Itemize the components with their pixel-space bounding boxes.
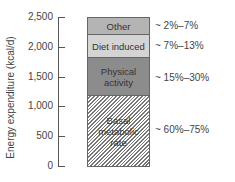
y-axis-label: Energy expenditure (kcal/d) <box>5 23 16 173</box>
segment-basal-metabolic-rate: Basal metabolic rate <box>87 95 150 167</box>
y-tick <box>58 166 65 167</box>
annotation-other: ~ 2%–7% <box>155 20 198 31</box>
y-tick <box>58 106 65 107</box>
segment-basal-label-2: metabolic <box>98 126 139 137</box>
segment-basal-label-3: rate <box>110 137 126 148</box>
segment-physical-activity: Physical activity <box>87 57 150 96</box>
y-tick-label: 1,000 <box>28 100 53 111</box>
annotation-basal: ~ 60%–75% <box>155 124 209 135</box>
segment-diet-label: Diet induced <box>92 41 145 52</box>
y-axis-line <box>58 17 59 167</box>
segment-other-label: Other <box>107 21 131 32</box>
segment-physical-label-2: activity <box>104 77 133 88</box>
y-tick <box>58 77 65 78</box>
segment-basal-label-1: Basal <box>107 115 131 126</box>
y-tick-label: 500 <box>36 130 53 141</box>
y-tick-label: 2,000 <box>28 41 53 52</box>
y-tick <box>58 136 65 137</box>
annotation-diet: ~ 7%–13% <box>155 40 204 51</box>
segment-diet-induced: Diet induced <box>87 34 150 58</box>
y-tick <box>58 17 65 18</box>
y-tick-label: 0 <box>47 160 53 171</box>
y-tick-label: 1,500 <box>28 71 53 82</box>
segment-physical-label-1: Physical <box>101 66 136 77</box>
segment-other: Other <box>87 17 150 35</box>
y-tick-label: 2,500 <box>28 11 53 22</box>
annotation-physical: ~ 15%–30% <box>155 72 209 83</box>
y-tick <box>58 47 65 48</box>
